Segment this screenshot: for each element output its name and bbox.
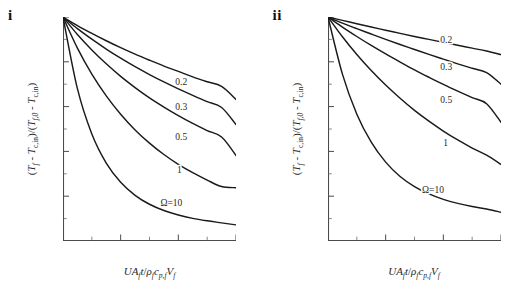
y-T-cin-2-sub: c,in [31,87,40,98]
curve-label-10: Ω=10 [421,185,443,195]
curve-label-0.2: 0.2 [175,77,187,87]
panel-i-x-axis-label: UAft/ρfcp,fVf [63,266,236,277]
panel-ii-plot-area: 0.00.20.40.60.81.001230.20.20.30.30.50.5… [328,17,501,241]
y2-paren-close: ) [290,83,302,87]
y2-T-cin-2-sub: c,in [295,87,304,98]
curve-label-0.3: 0.3 [440,62,452,72]
curve-label-1: 1 [177,165,182,175]
y2-T-cin-2: T [290,98,302,104]
curve-10 [328,17,501,212]
x-U: U [124,265,132,277]
x2-V: V [431,265,438,277]
y2-paren-open: ( [290,172,302,176]
panel-ii: ii 0.00.20.40.60.81.001230.20.20.30.30.5… [265,0,529,300]
curve-1 [328,17,501,164]
curve-label-0.5: 0.5 [440,95,452,105]
curve-0.3 [63,17,236,125]
panel-ii-x-axis-label: UAft/ρfcp,fVf [328,266,501,277]
panel-i-label: i [8,8,13,23]
x2-U: U [388,265,396,277]
y2-T-cin-sub: c,in [295,137,304,148]
y2-T-f0-sub: f,0 [295,113,304,121]
y-paren-close-open: )/( [25,127,37,137]
x2-V-sub: f [438,271,440,280]
y2-T-f: T [290,165,302,171]
y-paren-close: ) [25,83,37,87]
curve-10 [63,17,236,225]
y2-paren-close-open: )/( [290,127,302,137]
curve-label-1: 1 [443,138,448,148]
y2-T-f0: T [290,120,302,126]
panel-i-y-axis-label: (Tf - Tc,in)/(Tf,0 - Tc,in) [26,17,37,241]
y-minus-1: - [25,154,37,163]
y-T-cin-sub: c,in [31,137,40,148]
panel-ii-svg: 0.00.20.40.60.81.001230.20.20.30.30.50.5… [328,17,501,241]
panel-i-plot-area: 0.00.20.40.60.81.001230.20.20.30.30.50.5… [63,17,236,241]
curve-label-0.2: 0.2 [440,35,452,45]
y2-minus-1: - [290,154,302,163]
figure-two-panel-chart: i 0.00.20.40.60.81.001230.20.20.30.30.50… [0,0,529,300]
y2-T-cin: T [290,148,302,154]
y2-T-f-sub: f [295,163,304,165]
curve-0.2 [63,17,236,99]
y-T-f-sub: f [31,163,40,165]
y-T-f0-sub: f,0 [31,113,40,121]
x2-c-sub: p,f [423,271,431,280]
panel-ii-y-axis-label: (Tf - Tc,in)/(Tf,0 - Tc,in) [291,17,302,241]
y-minus-2: - [25,104,37,113]
panel-ii-label: ii [273,8,282,23]
curve-label-10: Ω=10 [160,198,182,208]
y2-minus-2: - [290,104,302,113]
x2-A: A [396,265,403,277]
curve-label-0.5: 0.5 [175,132,187,142]
x-c-sub: p,f [159,271,167,280]
curve-label-0.3: 0.3 [175,102,187,112]
y-T-f0: T [25,120,37,126]
panel-i-svg: 0.00.20.40.60.81.001230.20.20.30.30.50.5… [63,17,236,241]
y-T-cin-2: T [25,98,37,104]
x-V-sub: f [173,271,175,280]
y-paren-open: ( [25,172,37,176]
y-T-cin: T [25,148,37,154]
y-T-f: T [25,165,37,171]
panel-i: i 0.00.20.40.60.81.001230.20.20.30.30.50… [0,0,265,300]
